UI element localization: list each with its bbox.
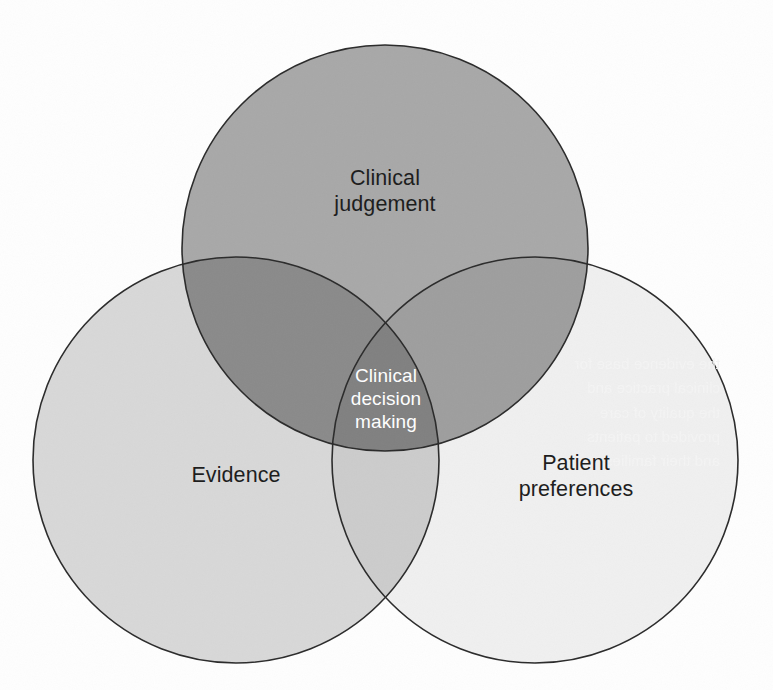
center-label-clinical-decision-making: Clinical decision making	[300, 364, 472, 434]
circle-label-evidence: Evidence	[116, 462, 356, 488]
circle-label-patient-preferences: Patient preferences	[456, 450, 696, 502]
venn-circles-canvas	[0, 0, 773, 690]
venn-diagram: the evidence base for clinical practice …	[0, 0, 773, 690]
circle-label-clinical-judgement: Clinical judgement	[265, 165, 505, 217]
